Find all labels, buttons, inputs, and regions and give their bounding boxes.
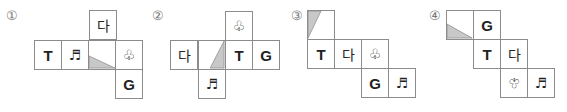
club-icon: ♧: [508, 75, 521, 91]
music-note-icon: ♬: [206, 76, 219, 92]
shaded-triangle-icon: [89, 41, 115, 69]
option-1-label: ①: [6, 8, 18, 23]
net-face-shaded: [88, 40, 116, 70]
net-face-club: ♧: [361, 39, 389, 69]
shaded-triangle-icon: [199, 41, 225, 69]
net-face-music: ♬: [61, 40, 89, 70]
net-face-club: ♧: [500, 68, 528, 98]
net-face-t: T: [307, 39, 335, 69]
net-face-da: 다: [89, 10, 117, 40]
net-face-t: T: [225, 40, 253, 70]
club-icon: ♧: [369, 46, 382, 62]
net-face-t: T: [34, 40, 62, 70]
net-face-club: ♧: [115, 40, 143, 70]
cube-net-options: ① 다 T ♬ ♧ G ② ♧ 다 T G ♬ ③ T: [0, 0, 567, 112]
net-face-t: T: [473, 39, 501, 69]
net-face-club: ♧: [225, 11, 253, 41]
shaded-triangle-icon: [447, 11, 473, 39]
option-3-label: ③: [291, 8, 303, 23]
shaded-triangle-icon: [308, 11, 334, 39]
music-note-icon: ♬: [535, 75, 548, 91]
net-face-g: G: [115, 69, 143, 99]
net-face-da: 다: [170, 40, 198, 70]
net-face-music: ♬: [388, 68, 416, 98]
net-face-shaded: [198, 40, 226, 70]
club-icon: ♧: [123, 47, 136, 63]
club-icon: ♧: [233, 18, 246, 34]
net-face-music: ♬: [198, 69, 226, 99]
net-face-da: 다: [334, 39, 362, 69]
net-face-g: G: [252, 40, 280, 70]
net-face-da: 다: [500, 39, 528, 69]
music-note-icon: ♬: [69, 47, 82, 63]
option-4-label: ④: [429, 8, 441, 23]
net-face-music: ♬: [527, 68, 555, 98]
net-face-shaded: [446, 10, 474, 40]
net-face-g: G: [361, 68, 389, 98]
net-face-g: G: [473, 10, 501, 40]
option-2-label: ②: [152, 8, 164, 23]
music-note-icon: ♬: [396, 75, 409, 91]
net-face-shaded: [307, 10, 335, 40]
